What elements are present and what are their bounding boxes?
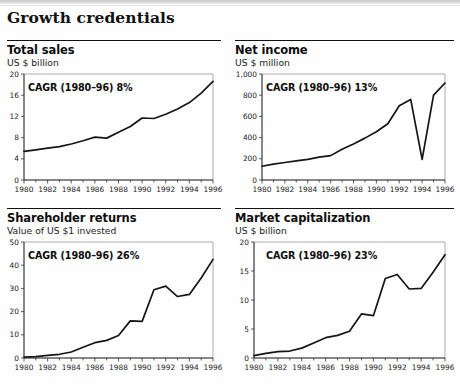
svg-text:800: 800 (243, 91, 257, 100)
svg-text:1984: 1984 (62, 363, 81, 372)
svg-text:1980: 1980 (253, 185, 272, 194)
svg-text:1996: 1996 (436, 363, 455, 372)
svg-text:1986: 1986 (316, 363, 335, 372)
svg-text:0: 0 (14, 354, 19, 363)
svg-text:1980: 1980 (245, 363, 264, 372)
svg-text:1986: 1986 (85, 185, 104, 194)
svg-text:1986: 1986 (85, 363, 104, 372)
svg-text:1988: 1988 (340, 363, 359, 372)
svg-text:1994: 1994 (413, 185, 432, 194)
svg-text:1988: 1988 (344, 185, 363, 194)
figure-page: Growth credentials Total sales US $ bill… (0, 0, 460, 390)
chart-title: Shareholder returns (7, 211, 136, 225)
svg-text:1996: 1996 (204, 363, 223, 372)
chart-subtitle: US $ billion (235, 225, 287, 236)
svg-text:1992: 1992 (390, 185, 409, 194)
cagr-annotation: CAGR (1980–96) 8% (28, 82, 133, 93)
svg-text:12: 12 (10, 112, 19, 121)
window-top-bar-edge (0, 5, 460, 6)
svg-text:1992: 1992 (156, 185, 175, 194)
svg-text:1982: 1982 (275, 185, 294, 194)
svg-text:1980: 1980 (15, 363, 34, 372)
svg-text:40: 40 (10, 261, 20, 270)
svg-text:50: 50 (10, 238, 20, 247)
cagr-annotation: CAGR (1980–96) 26% (28, 250, 139, 261)
svg-text:600: 600 (243, 112, 257, 121)
svg-text:400: 400 (243, 133, 257, 142)
chart-subtitle: Value of US $1 invested (7, 225, 116, 236)
svg-text:1994: 1994 (412, 363, 431, 372)
chart-panel-shareholder-returns: Shareholder returns Value of US $1 inves… (0, 208, 228, 390)
svg-text:1,000: 1,000 (236, 70, 257, 79)
svg-text:16: 16 (10, 91, 20, 100)
chart-title: Total sales (7, 43, 75, 57)
chart-panel-net-income: Net income US $ million 02004006008001,0… (228, 40, 460, 208)
svg-text:8: 8 (14, 133, 19, 142)
chart-title: Market capitalization (235, 211, 370, 225)
svg-text:1988: 1988 (109, 363, 128, 372)
svg-text:1980: 1980 (15, 185, 34, 194)
panel-rule (7, 208, 221, 209)
svg-text:0: 0 (252, 176, 257, 185)
svg-text:1984: 1984 (62, 185, 81, 194)
svg-text:0: 0 (244, 354, 249, 363)
svg-text:1996: 1996 (204, 185, 223, 194)
svg-text:4: 4 (14, 154, 19, 163)
panel-rule (235, 208, 454, 209)
svg-text:10: 10 (240, 296, 250, 305)
svg-text:1990: 1990 (133, 185, 152, 194)
panel-rule (7, 40, 221, 41)
svg-text:1982: 1982 (38, 363, 57, 372)
svg-text:1996: 1996 (436, 185, 455, 194)
page-title: Growth credentials (7, 8, 175, 27)
svg-text:200: 200 (243, 154, 257, 163)
svg-text:1990: 1990 (364, 363, 383, 372)
svg-text:15: 15 (240, 267, 250, 276)
svg-text:1986: 1986 (321, 185, 340, 194)
svg-text:20: 20 (10, 307, 20, 316)
chart-subtitle: US $ million (235, 57, 290, 68)
svg-text:20: 20 (240, 238, 250, 247)
svg-text:1990: 1990 (133, 363, 152, 372)
svg-text:5: 5 (244, 325, 249, 334)
svg-text:30: 30 (10, 284, 20, 293)
panel-rule (235, 40, 454, 41)
chart-panel-total-sales: Total sales US $ billion 048121620198019… (0, 40, 228, 208)
svg-text:1994: 1994 (180, 363, 199, 372)
cagr-annotation: CAGR (1980–96) 23% (266, 250, 377, 261)
svg-text:0: 0 (14, 176, 19, 185)
svg-text:1982: 1982 (268, 363, 287, 372)
chart-subtitle: US $ billion (7, 57, 59, 68)
svg-text:1992: 1992 (156, 363, 175, 372)
svg-text:1992: 1992 (388, 363, 407, 372)
svg-text:20: 20 (10, 70, 20, 79)
svg-text:1982: 1982 (38, 185, 57, 194)
svg-text:1984: 1984 (292, 363, 311, 372)
svg-text:10: 10 (10, 330, 20, 339)
svg-text:1990: 1990 (367, 185, 386, 194)
svg-text:1988: 1988 (109, 185, 128, 194)
chart-title: Net income (235, 43, 308, 57)
svg-text:1994: 1994 (180, 185, 199, 194)
chart-panel-market-capitalization: Market capitalization US $ billion 05101… (228, 208, 460, 390)
cagr-annotation: CAGR (1980–96) 13% (266, 82, 377, 93)
svg-text:1984: 1984 (298, 185, 317, 194)
